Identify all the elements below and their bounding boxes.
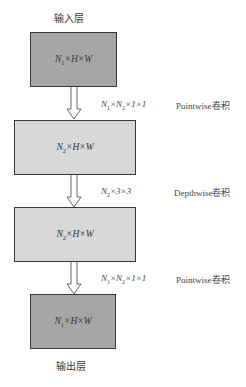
op1-name: Pointwise卷积 — [176, 99, 230, 112]
input-layer-label: 输入层 — [54, 10, 84, 25]
output-tensor-box: N1×H×W — [30, 294, 116, 349]
intermediate-tensor-box-2: N2×H×W — [14, 207, 136, 262]
down-arrow-icon — [66, 175, 82, 208]
intermediate-tensor-box-1: N2×H×W — [14, 120, 136, 175]
op3-kernel-shape: N1×N2×1×1 — [101, 273, 146, 285]
op1-kernel-shape: N1×N2×1×1 — [101, 99, 146, 111]
tensor-shape-text: N1×H×W — [54, 316, 91, 328]
tensor-shape-text: N2×H×W — [56, 229, 93, 241]
tensor-shape-text: N2×H×W — [56, 142, 93, 154]
down-arrow-icon — [66, 87, 82, 120]
tensor-shape-text: N1×H×W — [55, 54, 92, 66]
op2-kernel-shape: N2×3×3 — [101, 186, 131, 198]
down-arrow-icon — [66, 262, 82, 295]
op3-name: Pointwise卷积 — [176, 273, 230, 286]
op2-name: Depthwise卷积 — [174, 186, 231, 199]
output-layer-label: 输出层 — [56, 358, 86, 373]
input-tensor-box: N1×H×W — [30, 32, 117, 87]
